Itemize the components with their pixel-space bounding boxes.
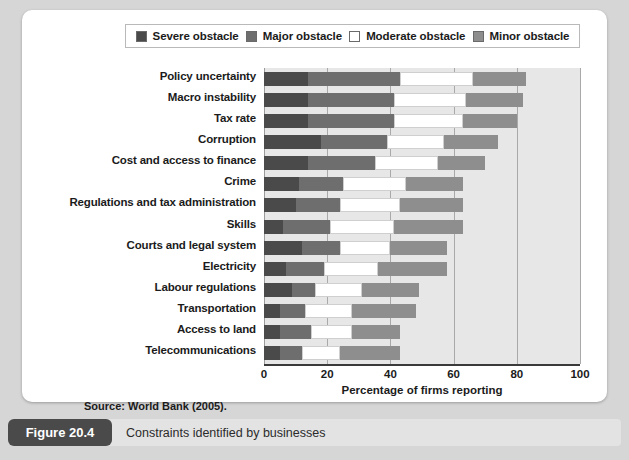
figure-page: Severe obstacle Major obstacle Moderate …	[0, 0, 629, 460]
bar-segment	[406, 177, 463, 191]
bar-row	[264, 220, 463, 234]
bar-segment	[305, 304, 352, 318]
x-axis-tick-labels: 020406080100	[264, 368, 594, 384]
x-tick-label-20: 20	[321, 368, 334, 380]
bar-segment	[264, 241, 302, 255]
bar-segment	[299, 177, 343, 191]
bar-row	[264, 283, 419, 297]
bar-segment	[264, 304, 280, 318]
category-label: Tax rate	[60, 112, 256, 124]
gridline-100	[580, 68, 581, 364]
bar-segment	[473, 72, 527, 86]
category-label: Policy uncertainty	[60, 70, 256, 82]
bar-segment	[362, 283, 419, 297]
bar-segment	[394, 93, 467, 107]
x-axis-title: Percentage of firms reporting	[264, 384, 580, 396]
bar-segment	[340, 198, 400, 212]
bar-segment	[394, 114, 464, 128]
bar-row	[264, 346, 400, 360]
category-axis-labels: Policy uncertaintyMacro instabilityTax r…	[62, 68, 260, 364]
legend-swatch-minor	[473, 31, 484, 42]
category-label: Skills	[60, 218, 256, 230]
bar-segment	[264, 283, 292, 297]
bar-segment	[264, 262, 286, 276]
bar-segment	[264, 325, 280, 339]
bar-segment	[264, 135, 321, 149]
bar-segment	[352, 304, 415, 318]
category-label: Telecommunications	[60, 344, 256, 356]
bar-segment	[352, 325, 399, 339]
bar-row	[264, 241, 447, 255]
legend-swatch-severe	[136, 31, 147, 42]
legend-item-minor: Minor obstacle	[473, 30, 570, 42]
bar-segment	[264, 346, 280, 360]
figure-caption-bar: Figure 20.4 Constraints identified by bu…	[8, 419, 621, 446]
bar-segment	[264, 93, 308, 107]
bar-segment	[308, 156, 374, 170]
bar-segment	[438, 156, 485, 170]
category-label: Corruption	[60, 133, 256, 145]
x-tick-label-100: 100	[570, 368, 589, 380]
bar-segment	[283, 220, 330, 234]
bar-segment	[292, 283, 314, 297]
bar-row	[264, 93, 523, 107]
bar-segment	[286, 262, 324, 276]
bar-segment	[308, 72, 400, 86]
category-label: Macro instability	[60, 91, 256, 103]
bar-segment	[343, 177, 406, 191]
bar-segment	[264, 114, 308, 128]
bar-segment	[321, 135, 387, 149]
bar-segment	[375, 156, 438, 170]
bar-segment	[330, 220, 393, 234]
bar-row	[264, 177, 463, 191]
bar-row	[264, 304, 416, 318]
legend-swatch-major	[246, 31, 257, 42]
plot-area	[264, 68, 580, 364]
bar-segment	[378, 262, 448, 276]
chart-legend: Severe obstacle Major obstacle Moderate …	[125, 24, 580, 48]
bar-segment	[324, 262, 378, 276]
bar-segment	[264, 177, 299, 191]
legend-swatch-moderate	[349, 31, 360, 42]
bar-segment	[390, 241, 447, 255]
bar-segment	[264, 156, 308, 170]
bar-row	[264, 198, 463, 212]
bar-segment	[340, 241, 391, 255]
category-label: Crime	[60, 175, 256, 187]
bar-segment	[315, 283, 362, 297]
legend-item-major: Major obstacle	[246, 30, 342, 42]
bar-segment	[280, 304, 305, 318]
bar-segment	[444, 135, 498, 149]
category-label: Access to land	[60, 323, 256, 335]
source-note: Source: World Bank (2005).	[84, 400, 227, 412]
bar-series-group	[264, 68, 580, 364]
bar-segment	[280, 346, 302, 360]
bar-segment	[264, 198, 296, 212]
bar-segment	[400, 198, 463, 212]
legend-item-severe: Severe obstacle	[136, 30, 239, 42]
category-label: Cost and access to finance	[60, 154, 256, 166]
category-label: Regulations and tax administration	[60, 196, 256, 208]
bar-row	[264, 262, 447, 276]
bar-segment	[308, 114, 393, 128]
legend-item-moderate: Moderate obstacle	[349, 30, 465, 42]
bar-row	[264, 114, 517, 128]
bar-segment	[280, 325, 312, 339]
category-label: Labour regulations	[60, 281, 256, 293]
x-tick-label-80: 80	[510, 368, 523, 380]
bar-segment	[400, 72, 473, 86]
bar-segment	[387, 135, 444, 149]
category-label: Courts and legal system	[60, 239, 256, 251]
category-label: Transportation	[60, 302, 256, 314]
legend-label-severe: Severe obstacle	[153, 30, 239, 42]
bar-segment	[296, 198, 340, 212]
category-label: Electricity	[60, 260, 256, 272]
bar-segment	[463, 114, 517, 128]
bar-segment	[264, 220, 283, 234]
bar-segment	[302, 346, 340, 360]
legend-label-minor: Minor obstacle	[490, 30, 570, 42]
x-axis-line	[264, 364, 580, 366]
bar-segment	[311, 325, 352, 339]
bar-segment	[308, 93, 393, 107]
bar-segment	[340, 346, 400, 360]
